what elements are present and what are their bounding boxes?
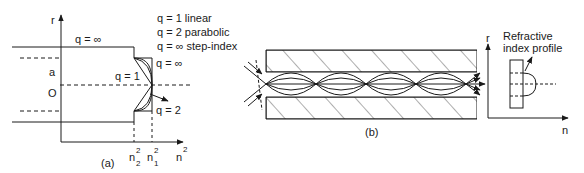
ray-paths	[266, 73, 466, 95]
n2-axis-label: n	[176, 151, 182, 163]
q-infinity-left-label: q = ∞	[75, 33, 102, 45]
core-radius-label: a	[49, 66, 55, 78]
refractive-profile-label-1: Refractive	[503, 30, 553, 42]
tick-n1: n	[147, 151, 153, 163]
origin-label: O	[48, 87, 57, 99]
n-axis-label-c: n	[562, 124, 568, 136]
caption-a: (a)	[101, 157, 114, 169]
figure-canvas	[0, 0, 584, 173]
refractive-profile-label-2: index profile	[503, 42, 562, 54]
tick-n2: n	[129, 151, 135, 163]
q2-label: q = 2	[156, 104, 181, 116]
caption-b: (b)	[365, 126, 378, 138]
legend-q2: q = 2 parabolic	[157, 26, 229, 38]
r-axis-label: r	[51, 14, 55, 26]
q1-label: q = 1	[115, 70, 140, 82]
legend-qinf: q = ∞ step-index	[157, 40, 237, 52]
q-infinity-right-label: q = ∞	[156, 57, 183, 69]
legend-q1: q = 1 linear	[157, 12, 212, 24]
r-axis-label-c: r	[486, 32, 490, 44]
panel-b-graded-fiber	[244, 50, 485, 119]
panel-c-index-profile	[488, 44, 568, 118]
